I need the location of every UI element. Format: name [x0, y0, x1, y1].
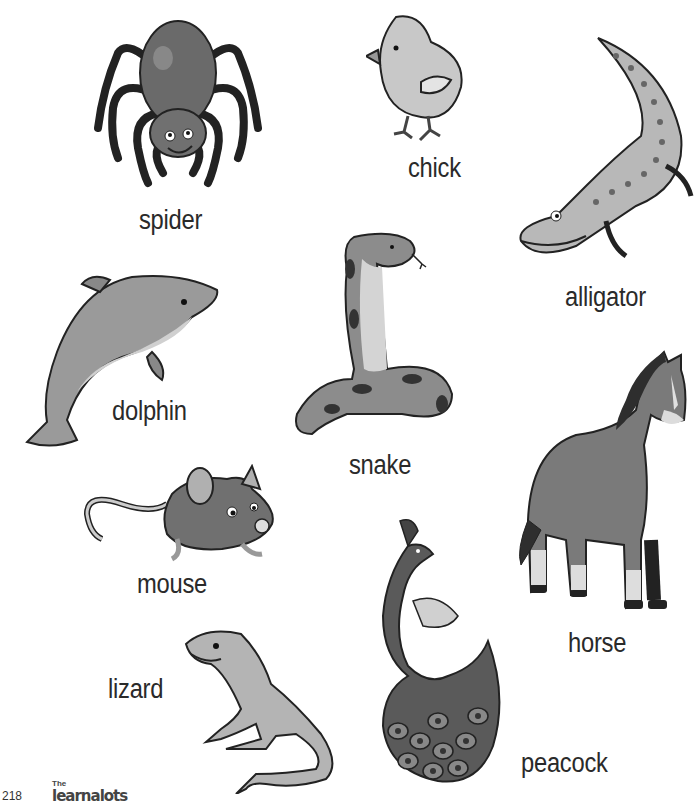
animal-label-lizard: lizard [108, 676, 163, 703]
animal-label-spider: spider [139, 207, 202, 234]
animal-label-chick: chick [408, 155, 461, 182]
animal-label-horse: horse [568, 630, 626, 657]
lizard-illustration [176, 624, 354, 794]
animal-label-peacock: peacock [521, 750, 608, 777]
animal-label-dolphin: dolphin [112, 398, 187, 425]
horse-illustration [516, 350, 692, 620]
publisher-logo: The learnalots [52, 779, 112, 807]
alligator-illustration [516, 36, 696, 268]
animal-label-mouse: mouse [137, 571, 207, 598]
page-number: 218 [2, 789, 22, 803]
mouse-illustration [82, 464, 280, 564]
spider-illustration [88, 8, 268, 193]
animal-label-alligator: alligator [565, 284, 646, 311]
animal-label-snake: snake [349, 452, 411, 479]
snake-illustration [292, 229, 460, 439]
publisher-logo-main: learnalots [52, 787, 127, 805]
peacock-illustration [378, 516, 518, 788]
chick-illustration [366, 12, 468, 142]
